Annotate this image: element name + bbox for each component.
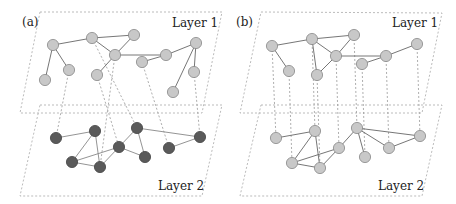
network-node bbox=[167, 86, 178, 97]
network-node bbox=[266, 40, 277, 51]
network-node bbox=[136, 56, 147, 67]
network-node bbox=[283, 65, 294, 76]
layer-2-label: Layer 2 bbox=[158, 179, 204, 193]
network-node bbox=[348, 29, 359, 40]
network-node bbox=[39, 74, 50, 85]
network-node bbox=[311, 69, 322, 80]
layer-1-label: Layer 1 bbox=[172, 16, 218, 30]
interlayer-link bbox=[289, 71, 292, 163]
layer-2-label: Layer 2 bbox=[378, 179, 424, 193]
network-node bbox=[109, 49, 120, 60]
interlayer-link bbox=[272, 46, 276, 138]
intralayer-edges bbox=[272, 35, 420, 168]
network-node bbox=[47, 39, 58, 50]
interlayer-link bbox=[354, 35, 357, 128]
network-node bbox=[63, 64, 74, 75]
network-node bbox=[113, 141, 124, 152]
interlayer-links bbox=[56, 38, 200, 167]
network-node bbox=[89, 125, 100, 136]
interlayer-link bbox=[56, 70, 69, 138]
network-node bbox=[131, 122, 142, 133]
interlayer-link bbox=[386, 56, 389, 148]
network-node bbox=[351, 122, 362, 133]
interlayer-link bbox=[194, 72, 200, 137]
network-node bbox=[188, 66, 199, 77]
network-node bbox=[309, 125, 320, 136]
interlayer-link bbox=[362, 64, 365, 157]
network-node bbox=[66, 156, 77, 167]
network-node bbox=[330, 50, 341, 61]
network-node bbox=[356, 58, 367, 69]
multilayer-network-diagram: (a) Layer 1 Layer 2 (b) Layer 1 Layer 2 bbox=[0, 0, 456, 204]
network-node bbox=[333, 142, 344, 153]
panel-label-a: (a) bbox=[22, 15, 39, 29]
network-node bbox=[306, 33, 317, 44]
network-node bbox=[190, 37, 201, 48]
network-node bbox=[163, 142, 174, 153]
interlayer-links bbox=[272, 35, 420, 168]
network-node bbox=[86, 32, 97, 43]
network-edge bbox=[312, 35, 354, 39]
layer-planes bbox=[240, 12, 442, 196]
interlayer-link bbox=[417, 44, 420, 136]
network-node bbox=[94, 161, 105, 172]
network-nodes bbox=[266, 29, 425, 173]
network-edge bbox=[92, 35, 134, 38]
network-node bbox=[128, 29, 139, 40]
network-node bbox=[194, 131, 205, 142]
network-node bbox=[286, 157, 297, 168]
panel-a: (a) Layer 1 Layer 2 bbox=[20, 12, 222, 196]
network-node bbox=[414, 130, 425, 141]
network-node bbox=[50, 132, 61, 143]
layer-1-label: Layer 1 bbox=[392, 16, 438, 30]
network-nodes bbox=[39, 29, 205, 172]
network-edge bbox=[272, 39, 312, 46]
network-node bbox=[139, 151, 150, 162]
network-node bbox=[359, 151, 370, 162]
panel-b: (b) Layer 1 Layer 2 bbox=[236, 12, 442, 196]
network-edge bbox=[137, 128, 200, 137]
network-node bbox=[383, 142, 394, 153]
network-node bbox=[411, 38, 422, 49]
network-node bbox=[314, 162, 325, 173]
network-node bbox=[270, 132, 281, 143]
network-node bbox=[160, 49, 171, 60]
network-node bbox=[380, 50, 391, 61]
network-node bbox=[91, 69, 102, 80]
panel-label-b: (b) bbox=[236, 15, 253, 29]
interlayer-link bbox=[336, 56, 339, 148]
